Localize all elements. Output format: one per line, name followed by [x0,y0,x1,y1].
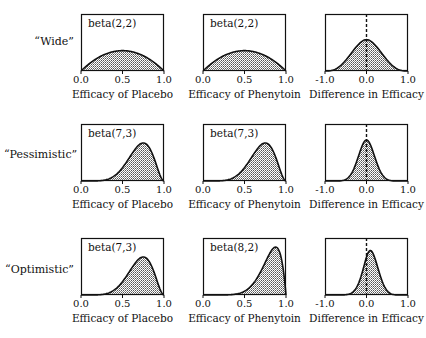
x-tick-label: 0.5 [237,74,253,85]
x-tick-label: 1.0 [400,298,416,309]
density-panel-r1-c0: beta(7,3) [81,124,164,181]
x-tick-label: 0.0 [195,298,211,309]
x-tick-label: 0.0 [359,298,375,309]
x-axis-label: Efficacy of Phenytoin [188,198,301,210]
distribution-annotation: beta(2,2) [88,17,136,29]
density-panel-r0-c0: beta(2,2) [81,14,164,71]
x-tick-label: 1.0 [156,184,172,195]
x-tick-label: 0.5 [115,298,131,309]
x-tick-label: 0.5 [115,184,131,195]
x-tick-label: 0.0 [359,184,375,195]
x-axis-label: Efficacy of Placebo [72,198,173,210]
x-tick-label: 0.0 [73,74,89,85]
density-panel-r2-c0: beta(7,3) [81,238,164,295]
x-tick-label: 0.0 [73,184,89,195]
x-tick-label: 1.0 [400,184,416,195]
x-tick-label: 1.0 [156,74,172,85]
x-tick-label: 1.0 [278,298,294,309]
density-panel-r2-c2 [325,238,408,295]
x-axis-label: Efficacy of Phenytoin [188,312,301,324]
x-tick-label: 1.0 [278,184,294,195]
x-axis-label: Efficacy of Placebo [72,312,173,324]
density-curve [325,124,408,181]
row-label-optimistic: “Optimistic” [4,263,74,276]
x-tick-label: 0.0 [195,74,211,85]
x-axis-label: Difference in Efficacy [309,198,424,210]
x-tick-label: 0.0 [359,74,375,85]
x-tick-label: 0.5 [237,298,253,309]
x-axis-label: Efficacy of Phenytoin [188,88,301,100]
density-panel-r0-c2 [325,14,408,71]
distribution-annotation: beta(7,3) [88,241,136,253]
x-tick-label: 1.0 [400,74,416,85]
x-tick-label: 0.0 [195,184,211,195]
x-tick-label: -1.0 [315,184,334,195]
x-axis-label: Difference in Efficacy [309,312,424,324]
distribution-annotation: beta(8,2) [210,241,258,253]
density-panel-r1-c2 [325,124,408,181]
density-panel-r2-c1: beta(8,2) [203,238,286,295]
x-tick-label: -1.0 [315,74,334,85]
row-label-pessimistic: “Pessimistic” [4,148,74,161]
x-tick-label: -1.0 [315,298,334,309]
density-panel-r1-c1: beta(7,3) [203,124,286,181]
density-curve [325,14,408,71]
density-panel-r0-c1: beta(2,2) [203,14,286,71]
x-tick-label: 0.0 [73,298,89,309]
x-tick-label: 0.5 [115,74,131,85]
distribution-annotation: beta(2,2) [210,17,258,29]
x-tick-label: 0.5 [237,184,253,195]
distribution-annotation: beta(7,3) [88,127,136,139]
row-label-wide: “Wide” [4,35,74,48]
x-tick-label: 1.0 [278,74,294,85]
x-axis-label: Efficacy of Placebo [72,88,173,100]
x-axis-label: Difference in Efficacy [309,88,424,100]
x-tick-label: 1.0 [156,298,172,309]
distribution-annotation: beta(7,3) [210,127,258,139]
density-curve [325,238,408,295]
